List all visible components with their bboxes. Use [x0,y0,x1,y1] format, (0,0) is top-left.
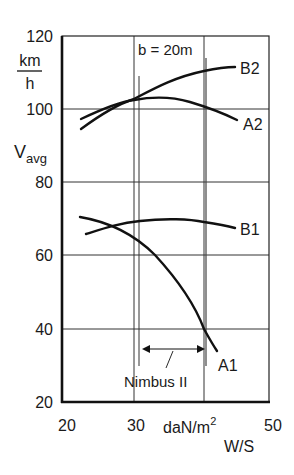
speed-vs-wing-loading-chart: B2 A2 B1 A1 b = 20m Nimbus II 120 100 80… [0,0,294,475]
curve-A1 [80,217,217,351]
x-unit-sup: 2 [210,415,216,427]
nimbus-label: Nimbus II [124,373,187,390]
ytick-100: 100 [26,101,53,118]
ytick-20: 20 [35,394,53,411]
ytick-120: 120 [26,28,53,45]
xtick-50: 50 [264,417,282,434]
ytick-40: 40 [35,321,53,338]
x-unit-base: daN/m [163,419,210,436]
y-axis-label: Vavg [14,142,47,166]
nimbus-leader-line [166,351,173,368]
curve-B1 [86,219,235,234]
xtick-30: 30 [127,417,145,434]
nimbus-range-arrow [142,345,205,368]
b-annotation: b = 20m [138,41,193,58]
y-unit-denominator: h [26,75,35,92]
label-B1: B1 [240,221,260,238]
ytick-60: 60 [35,247,53,264]
y-label-main: V [14,142,26,162]
label-A2: A2 [243,116,263,133]
x-unit: daN/m2 [163,415,216,436]
y-unit-numerator: km [19,52,40,69]
xtick-20: 20 [58,417,76,434]
label-A1: A1 [218,357,238,374]
ytick-80: 80 [35,174,53,191]
y-label-sub: avg [26,151,47,166]
x-axis-label: W/S [224,438,254,455]
label-B2: B2 [240,60,260,77]
